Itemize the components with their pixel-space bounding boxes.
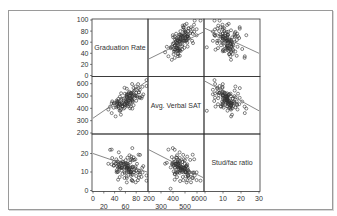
x-tick-label: 80: [132, 195, 140, 202]
y-tick-label: 300: [77, 117, 89, 124]
scatterplot-matrix: Graduation RateAvg. Verbal SATStud/fac r…: [0, 0, 337, 216]
y-tick-label: 10: [81, 168, 89, 175]
y-tick-label: 600: [77, 80, 89, 87]
variable-label: Avg. Verbal SAT: [151, 102, 202, 110]
y-tick-label: 40: [81, 50, 89, 57]
x-tick-label: 10: [219, 195, 227, 202]
x-tick-label: 400: [167, 195, 179, 202]
matrix-cell-0-0: Graduation Rate: [92, 19, 148, 77]
matrix-cell-0-1: [148, 19, 204, 77]
fit-line: [93, 81, 147, 118]
y-tick-label: 500: [77, 92, 89, 99]
variable-label: Stud/fac ratio: [211, 159, 252, 166]
y-tick-label: 200: [77, 129, 89, 136]
x-tick-label: 20: [100, 203, 108, 210]
y-axis: 02040608010020030040050060001020: [77, 16, 92, 194]
y-tick-label: 80: [81, 28, 89, 35]
y-tick-label: 400: [77, 105, 89, 112]
matrix-cell-0-2: [204, 19, 260, 77]
x-tick-label: 0: [203, 195, 207, 202]
y-tick-label: 100: [77, 16, 89, 23]
matrix-cell-1-1: Avg. Verbal SAT: [148, 77, 204, 135]
scatter-points: [107, 147, 148, 191]
x-tick-label: 500: [179, 203, 191, 210]
y-tick-label: 20: [81, 61, 89, 68]
y-tick-label: 0: [85, 72, 89, 79]
matrix-cell-2-0: [92, 134, 148, 192]
x-axis: 0408020602004006003005000102030: [91, 192, 263, 210]
x-tick-label: 30: [255, 195, 263, 202]
scatter-points: [164, 19, 202, 61]
matrix-cell-1-0: [92, 77, 148, 135]
y-tick-label: 0: [85, 187, 89, 194]
y-tick-label: 60: [81, 39, 89, 46]
scatter-points: [205, 19, 248, 61]
x-tick-label: 20: [237, 195, 245, 202]
matrix-cell-2-1: [148, 134, 204, 192]
x-tick-label: 40: [111, 195, 119, 202]
x-tick-label: 300: [155, 203, 167, 210]
x-tick-label: 0: [91, 195, 95, 202]
x-tick-label: 60: [122, 203, 130, 210]
x-tick-label: 200: [143, 195, 155, 202]
x-tick-label: 600: [191, 195, 203, 202]
scatter-points: [164, 147, 202, 191]
matrix-cell-2-2: Stud/fac ratio: [204, 134, 260, 192]
y-tick-label: 20: [81, 150, 89, 157]
matrix-cell-1-2: [204, 77, 260, 135]
variable-label: Graduation Rate: [94, 44, 145, 51]
